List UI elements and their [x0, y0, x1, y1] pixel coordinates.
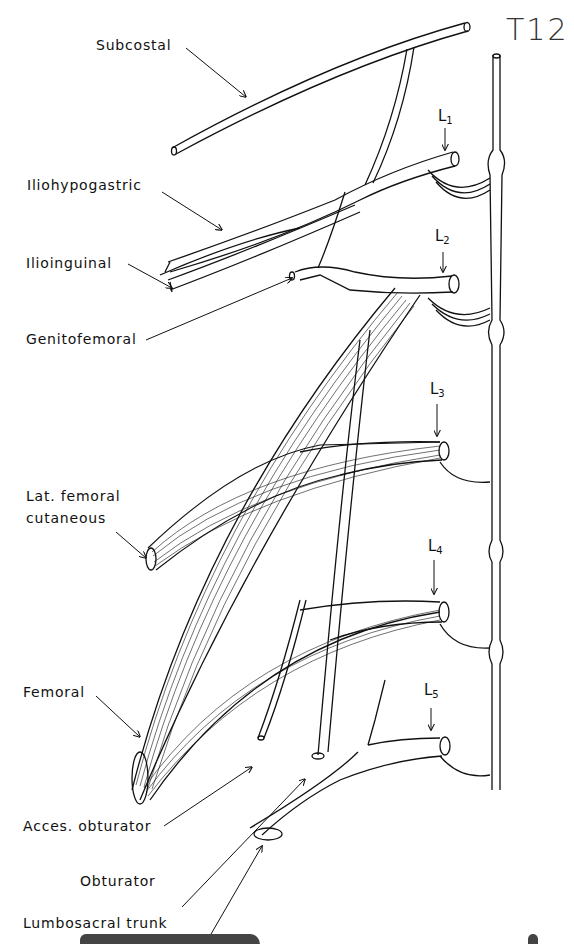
- label-lat-femoral-cutaneous-2: cutaneous: [26, 510, 106, 526]
- scan-smudge: [80, 934, 260, 944]
- segment-label-l5: L5: [424, 682, 439, 703]
- vertebral-level-annotation: T12: [506, 12, 569, 47]
- label-genitofemoral: Genitofemoral: [26, 331, 137, 347]
- segment-label-l4: L4: [428, 538, 443, 559]
- segment-label-l3: L3: [430, 381, 445, 402]
- label-obturator: Obturator: [80, 873, 156, 889]
- label-femoral: Femoral: [23, 684, 85, 700]
- label-ilioinguinal: Ilioinguinal: [26, 255, 112, 271]
- segment-label-l2: L2: [435, 228, 450, 249]
- segment-label-l1: L1: [438, 108, 453, 129]
- label-lat-femoral-cutaneous-1: Lat. femoral: [26, 488, 120, 504]
- label-subcostal: Subcostal: [96, 37, 171, 53]
- label-iliohypogastric: Iliohypogastric: [27, 177, 142, 193]
- lumbar-plexus-drawing: [0, 0, 574, 944]
- scan-smudge-right: [528, 934, 538, 944]
- label-acces-obturator: Acces. obturator: [23, 818, 151, 834]
- label-lumbosacral-trunk: Lumbosacral trunk: [23, 915, 167, 931]
